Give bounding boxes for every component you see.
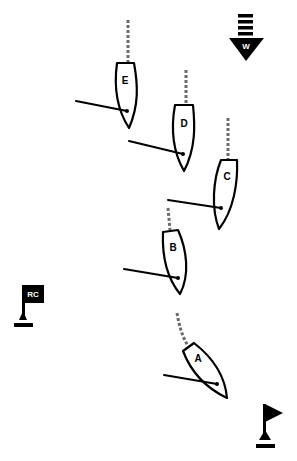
boat-a-label: A <box>194 353 201 364</box>
boat-e-label: E <box>122 75 129 86</box>
boat-a: A <box>164 313 227 398</box>
boat-d-label: D <box>180 118 187 129</box>
wind-label: W <box>242 42 250 51</box>
rc-flag-icon: RC <box>14 285 44 327</box>
rc-flag-label: RC <box>27 290 39 299</box>
boat-d-hull <box>173 105 194 171</box>
boat-b-mast-icon <box>176 276 180 280</box>
boat-e: E <box>76 20 137 128</box>
boat-a-mast-icon <box>215 382 219 386</box>
wind-arrow-icon: W <box>229 14 264 61</box>
boat-b: B <box>124 208 186 294</box>
boat-e-mast-icon <box>125 109 129 113</box>
boat-d-mast-icon <box>181 152 185 156</box>
boat-a-hull <box>183 343 227 398</box>
boat-b-track <box>168 208 170 230</box>
boat-c-mast-icon <box>219 206 223 210</box>
pin-flag-icon <box>256 404 283 448</box>
boat-c-label: C <box>223 171 230 182</box>
sailing-diagram: W E D C B A <box>0 0 297 461</box>
boat-a-track <box>177 313 188 346</box>
boat-b-hull <box>163 230 186 294</box>
boat-b-label: B <box>169 242 176 253</box>
boat-e-hull <box>116 63 137 128</box>
boat-d: D <box>129 70 194 171</box>
